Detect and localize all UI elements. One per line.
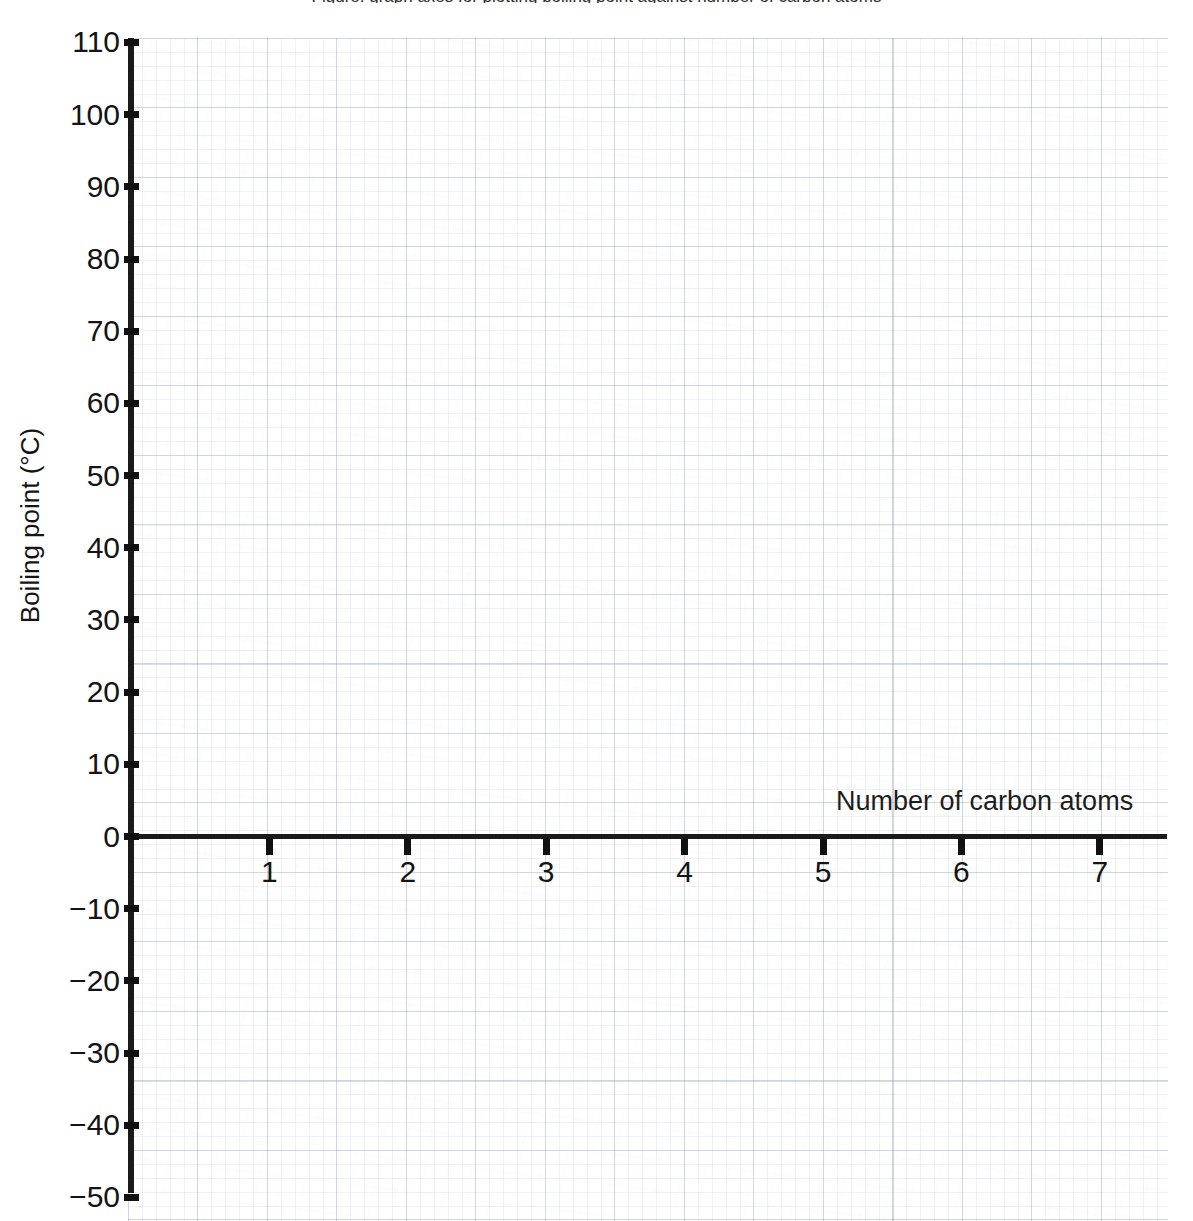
y-axis-tick-label: −10 bbox=[10, 894, 120, 924]
x-axis-title: Number of carbon atoms bbox=[836, 786, 1133, 817]
x-axis-tick-label: 3 bbox=[516, 857, 576, 887]
x-axis-tick bbox=[543, 838, 550, 855]
y-axis-tick bbox=[124, 1194, 139, 1201]
y-axis-tick-label: 100 bbox=[10, 100, 120, 130]
y-axis-tick bbox=[124, 977, 139, 984]
y-axis-tick bbox=[124, 39, 139, 46]
y-axis-tick bbox=[124, 689, 139, 696]
x-axis-tick-label: 4 bbox=[655, 857, 715, 887]
x-axis-tick bbox=[1096, 838, 1103, 855]
y-axis-tick bbox=[124, 111, 139, 118]
y-axis-tick bbox=[124, 256, 139, 263]
y-axis-title: Boiling point (°C) bbox=[15, 366, 46, 686]
x-axis-tick-label: 7 bbox=[1070, 857, 1130, 887]
x-axis-tick-label: 2 bbox=[378, 857, 438, 887]
x-axis-tick bbox=[681, 838, 688, 855]
y-axis-tick bbox=[124, 1122, 139, 1129]
cropped-title-text: Figure: graph axes for plotting boiling … bbox=[0, 0, 1193, 3]
cropped-title-strip: Figure: graph axes for plotting boiling … bbox=[0, 0, 1193, 3]
y-axis-tick-label: 10 bbox=[10, 749, 120, 779]
graph-paper-grid bbox=[128, 38, 1168, 1221]
y-axis-tick-label: 0 bbox=[10, 822, 120, 852]
x-axis-tick bbox=[820, 838, 827, 855]
y-axis-tick bbox=[124, 1050, 139, 1057]
y-axis-tick bbox=[124, 328, 139, 335]
x-axis-tick-label: 1 bbox=[239, 857, 299, 887]
y-axis-tick bbox=[124, 833, 139, 840]
y-axis-tick-label: 90 bbox=[10, 172, 120, 202]
y-axis-tick bbox=[124, 544, 139, 551]
y-axis-tick-label: −20 bbox=[10, 966, 120, 996]
x-axis-line bbox=[128, 834, 1167, 839]
y-axis-tick bbox=[124, 761, 139, 768]
y-axis-tick-label: −30 bbox=[10, 1038, 120, 1068]
y-axis-tick bbox=[124, 472, 139, 479]
y-axis-tick-label: 70 bbox=[10, 316, 120, 346]
y-axis-tick-label: 110 bbox=[10, 27, 120, 57]
x-axis-tick-label: 6 bbox=[931, 857, 991, 887]
chart-page: Figure: graph axes for plotting boiling … bbox=[0, 0, 1193, 1221]
x-axis-tick bbox=[958, 838, 965, 855]
x-axis-tick-label: 5 bbox=[793, 857, 853, 887]
y-axis-tick bbox=[124, 616, 139, 623]
y-axis-tick bbox=[124, 183, 139, 190]
x-axis-tick bbox=[404, 838, 411, 855]
y-axis-tick-label: −50 bbox=[10, 1182, 120, 1212]
y-axis-tick-label: −40 bbox=[10, 1110, 120, 1140]
y-axis-tick bbox=[124, 400, 139, 407]
y-axis-tick bbox=[124, 905, 139, 912]
y-axis-tick-label: 80 bbox=[10, 244, 120, 274]
x-axis-tick bbox=[266, 838, 273, 855]
